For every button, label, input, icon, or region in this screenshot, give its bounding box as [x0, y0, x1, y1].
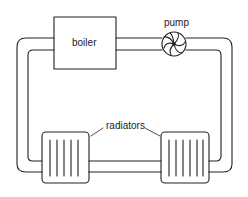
radiators-label: radiators: [106, 120, 145, 131]
pump-icon: [162, 32, 186, 56]
pump-label: pump: [164, 17, 189, 28]
boiler-label: boiler: [72, 37, 96, 48]
heating-circuit-diagram: boiler pump radiators: [0, 0, 248, 197]
diagram-graphic: [0, 0, 248, 197]
radiator-left: [42, 132, 89, 183]
pipe-outer: [17, 38, 232, 172]
radiator-right: [161, 132, 209, 183]
